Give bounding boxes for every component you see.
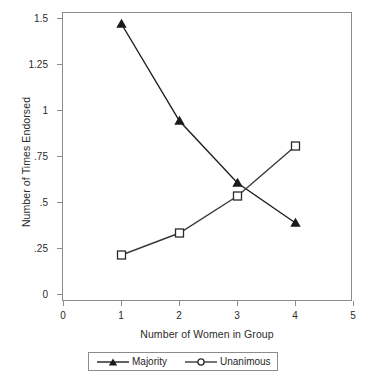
legend-item-majority[interactable]: Majority (97, 353, 167, 370)
chart-legend: Majority Unanimous (88, 352, 278, 371)
series-unanimous (118, 142, 300, 259)
plot-area (0, 0, 367, 377)
chart-container: Number of Times Endorsed Number of Women… (0, 0, 367, 377)
series-unanimous-line (122, 146, 296, 255)
series-majority (116, 19, 300, 227)
legend-label-majority: Majority (132, 356, 167, 367)
series-unanimous-markers (118, 142, 300, 259)
legend-item-unanimous[interactable]: Unanimous (185, 353, 271, 370)
plot-frame (63, 13, 352, 301)
legend-marker-majority-icon (97, 356, 129, 368)
series-majority-line (122, 24, 296, 223)
x-axis-ticks (64, 301, 354, 306)
legend-marker-unanimous-icon (185, 356, 217, 368)
legend-label-unanimous: Unanimous (220, 356, 271, 367)
series-majority-markers (116, 19, 300, 227)
y-axis-ticks (57, 19, 62, 295)
